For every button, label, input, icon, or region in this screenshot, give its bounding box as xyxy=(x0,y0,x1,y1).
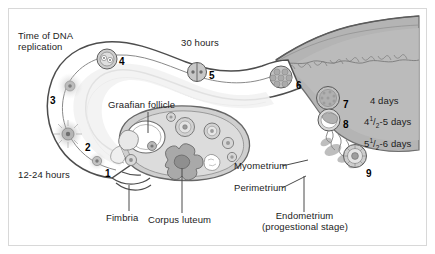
label-12-24-hours: 12-24 hours xyxy=(18,169,70,180)
label-5-half-6-days-tail: -6 days xyxy=(380,138,412,149)
stage-number-6: 6 xyxy=(296,81,302,91)
figure-canvas: Time of DNA replication 30 hours 12-24 h… xyxy=(0,0,435,254)
label-perimetrium: Perimetrium xyxy=(234,182,286,193)
label-corpus-luteum: Corpus luteum xyxy=(148,214,211,225)
label-4-half-5-days: 41/2-5 days xyxy=(364,116,411,127)
label-dna-replication-line2: replication xyxy=(18,41,62,52)
label-fimbria: Fimbria xyxy=(106,212,138,223)
label-myometrium: Myometrium xyxy=(234,160,287,171)
label-30-hours: 30 hours xyxy=(181,37,219,48)
stage-number-3: 3 xyxy=(50,96,56,106)
stage-number-7: 7 xyxy=(343,100,349,110)
stage-number-9: 9 xyxy=(366,169,372,179)
label-endometrium-line2: (progestional stage) xyxy=(244,221,366,232)
label-endometrium-line1: Endometrium xyxy=(252,210,357,221)
stage-number-4: 4 xyxy=(119,57,125,67)
label-5-half-6-days: 51/2-6 days xyxy=(364,138,411,149)
stage-number-2: 2 xyxy=(85,143,91,153)
stage-number-1: 1 xyxy=(105,169,111,179)
stage-number-8: 8 xyxy=(343,120,349,130)
label-4-days: 4 days xyxy=(370,95,399,106)
label-dna-replication-line1: Time of DNA xyxy=(18,30,73,41)
label-4-half-5-days-tail: -5 days xyxy=(380,116,412,127)
label-graafian-follicle: Graafian follicle xyxy=(108,99,175,110)
stage-number-5: 5 xyxy=(209,71,215,81)
